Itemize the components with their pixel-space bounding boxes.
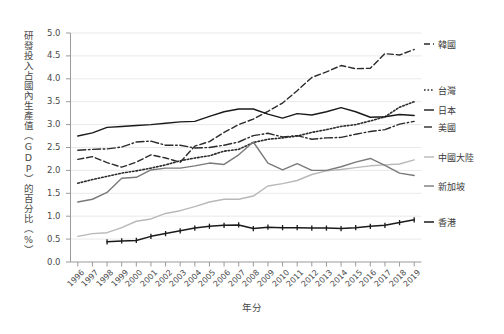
x-tick-marks xyxy=(78,262,414,267)
legend-line-stubs xyxy=(424,44,434,222)
y-tick-label: 3.5 xyxy=(35,96,61,106)
y-tick-label: 2.5 xyxy=(35,142,61,152)
series-line-1 xyxy=(78,102,414,184)
y-tick-label: 0.5 xyxy=(35,234,61,244)
y-tick-label: 3.0 xyxy=(35,119,61,129)
series-line-4 xyxy=(78,160,414,236)
legend-label-美國: 美國 xyxy=(438,121,456,134)
legend-label-韓國: 韓國 xyxy=(438,38,456,51)
series-line-6 xyxy=(107,220,414,242)
y-tick-label: 1.0 xyxy=(35,211,61,221)
y-tick-label: 5.0 xyxy=(35,28,61,38)
legend-label-新加坡: 新加坡 xyxy=(438,180,465,193)
y-tick-marks xyxy=(66,33,71,262)
legend-label-日本: 日本 xyxy=(438,104,456,117)
y-tick-label: 2.0 xyxy=(35,165,61,175)
y-tick-label: 1.5 xyxy=(35,188,61,198)
y-tick-label: 0.0 xyxy=(35,257,61,267)
legend-label-香港: 香港 xyxy=(438,216,456,229)
legend-label-台灣: 台灣 xyxy=(438,84,456,97)
x-axis-title: 年分 xyxy=(0,300,504,314)
chart-figure: 研發投入占國內生產值（GDP）的百分比（%） 年分 0.00.51.01.52.… xyxy=(0,0,504,334)
y-axis-title: 研發投入占國內生產值（GDP）的百分比（%） xyxy=(12,28,34,258)
y-tick-label: 4.5 xyxy=(35,50,61,60)
gridlines xyxy=(71,33,422,239)
legend-label-中國大陸: 中國大陸 xyxy=(438,151,474,164)
y-tick-label: 4.0 xyxy=(35,73,61,83)
